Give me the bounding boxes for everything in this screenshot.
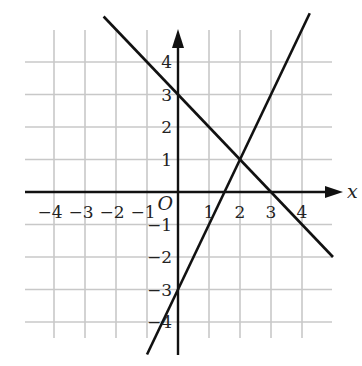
axes (25, 29, 343, 355)
x-tick-label: −3 (68, 202, 93, 222)
x-axis-arrow-icon (325, 186, 343, 198)
y-tick-label: 4 (161, 52, 172, 72)
y-tick-label: −1 (147, 215, 172, 235)
y-tick-label: −4 (147, 312, 172, 332)
x-tick-label: −4 (37, 202, 62, 222)
y-axis-arrow-icon (172, 29, 184, 48)
x-tick-label: 2 (235, 202, 246, 222)
y-tick-label: 2 (161, 117, 172, 137)
x-axis-label: x (347, 180, 358, 202)
graph-lines (104, 13, 333, 354)
y-tick-label: 3 (161, 85, 172, 105)
x-tick-label: 1 (204, 202, 215, 222)
origin-label: O (157, 192, 173, 214)
y-tick-label: −2 (147, 247, 172, 267)
x-tick-label: 3 (266, 202, 277, 222)
y-tick-label: −3 (147, 280, 172, 300)
x-tick-label: 4 (297, 202, 308, 222)
y-tick-label: 1 (161, 150, 172, 170)
coordinate-graph: −4−3−2−11234−4−3−2−11234Ox (0, 0, 362, 366)
x-tick-label: −2 (99, 202, 124, 222)
